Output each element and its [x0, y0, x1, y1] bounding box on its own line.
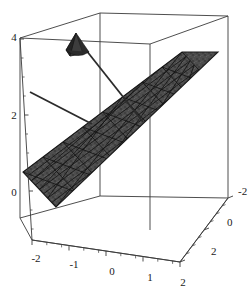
x-tick-label: -1: [69, 258, 78, 270]
y-tick-label: -2: [238, 185, 247, 197]
tangent-line-segment: [30, 92, 92, 124]
x-tick-label: 1: [147, 271, 153, 283]
y-axis: [180, 196, 233, 262]
x-tick-label: -2: [31, 252, 40, 264]
y-axis-tick-labels: -2 0 2: [211, 185, 247, 257]
x-tick-label: 2: [180, 276, 186, 288]
x-tick-label: 0: [109, 265, 115, 277]
z-axis-tick-labels: 4 2 0: [11, 31, 17, 198]
surface-plane: [23, 52, 218, 207]
x-axis-tick-labels: -2 -1 0 1 2: [31, 252, 185, 288]
y-tick-label: 0: [227, 216, 233, 228]
z-tick-label: 2: [11, 109, 17, 121]
y-tick-label: 2: [211, 245, 217, 257]
z-axis: [20, 38, 34, 240]
z-tick-label: 0: [11, 186, 17, 198]
normal-vector-arrow: [66, 33, 143, 122]
z-tick-label: 4: [11, 31, 17, 43]
x-axis: [32, 240, 180, 267]
plot-figure: 4 2 0 -2 -1 0 1 2 -2 0 2: [0, 0, 252, 289]
plot-canvas: 4 2 0 -2 -1 0 1 2 -2 0 2: [0, 0, 252, 289]
